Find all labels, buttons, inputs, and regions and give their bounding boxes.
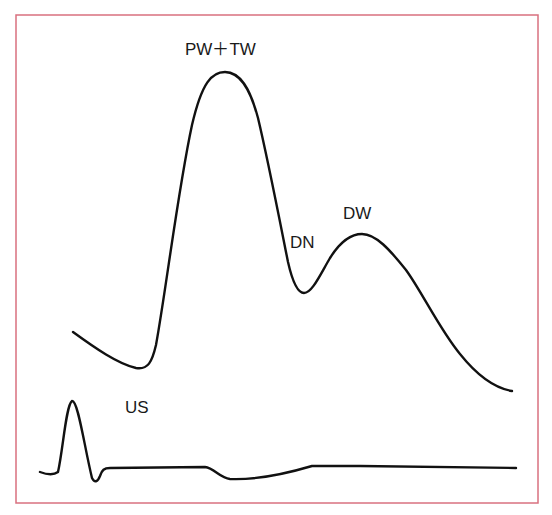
label-us: US — [125, 398, 149, 417]
waveform-diagram: PW＋TW DN DW US — [0, 0, 552, 515]
label-dn: DN — [290, 233, 315, 252]
diagram-frame — [16, 15, 538, 503]
label-dw: DW — [343, 204, 371, 223]
label-pw-tw: PW＋TW — [185, 40, 256, 59]
ultrasound-reference-curve — [40, 401, 516, 481]
pulse-waveform-curve — [73, 72, 512, 391]
